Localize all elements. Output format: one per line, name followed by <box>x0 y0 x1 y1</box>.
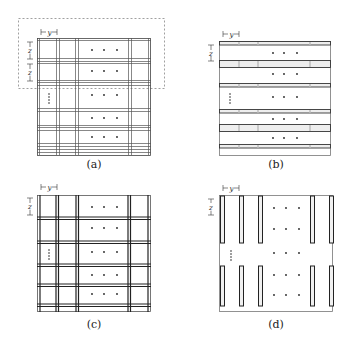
panel-c-frame <box>38 196 151 312</box>
panel-d-caption: (d) <box>256 318 296 331</box>
panel-d-bars <box>221 196 334 306</box>
panel-a-z-label-2: z <box>27 69 32 77</box>
dashed-highlight-box <box>19 19 165 89</box>
panel-c-y-label: y <box>47 184 53 192</box>
panel-c-horizontal-lines <box>37 217 151 307</box>
panel-a-ellipsis-dots <box>48 49 118 138</box>
panel-a-vertical-lines <box>40 38 149 155</box>
panel-d: y z <box>208 185 334 312</box>
panel-a-y-label: y <box>47 29 53 37</box>
panel-a-z-label: z <box>27 47 32 55</box>
panel-a-horizontal-lines <box>37 41 151 153</box>
panel-b-frame <box>220 42 331 156</box>
panel-a: y z z <box>19 19 165 156</box>
figure-canvas: y z z <box>0 0 350 348</box>
panel-d-frame <box>220 196 333 312</box>
panel-a-frame <box>38 39 151 156</box>
panel-a-caption: (a) <box>74 158 114 171</box>
panel-b-caption: (b) <box>256 158 296 171</box>
panel-b: y z <box>208 31 331 156</box>
panel-c-vertical-lines <box>40 195 148 312</box>
panel-c-caption: (c) <box>74 318 114 331</box>
panel-b-bars <box>220 42 331 149</box>
panel-b-bar-separators <box>239 42 310 148</box>
panel-c: y z <box>27 184 151 313</box>
panel-d-z-label: z <box>208 204 213 212</box>
panel-b-z-label: z <box>208 50 213 58</box>
panel-b-y-label: y <box>229 31 235 39</box>
panel-d-y-label: y <box>229 185 235 193</box>
panel-c-z-label: z <box>27 203 32 211</box>
